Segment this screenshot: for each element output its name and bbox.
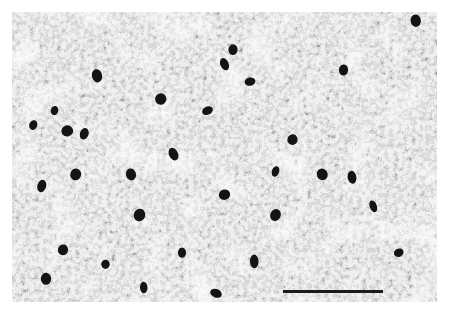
scale-bar — [283, 290, 383, 293]
tissue-micrograph — [12, 12, 437, 302]
cell-body — [101, 260, 109, 269]
neuropil-texture — [12, 12, 437, 302]
pale-regions — [12, 12, 437, 302]
cell-body — [178, 248, 186, 258]
